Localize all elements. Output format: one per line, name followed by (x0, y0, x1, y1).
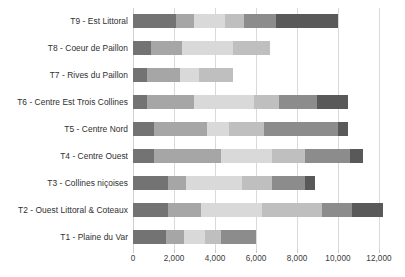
bar-segment[interactable] (242, 176, 273, 190)
bar-segment[interactable] (133, 68, 147, 82)
bar-segment[interactable] (133, 41, 151, 55)
bar-segment[interactable] (244, 14, 277, 28)
bar-segment[interactable] (184, 230, 205, 244)
y-axis-label: T9 - Est Littoral (0, 14, 128, 28)
x-tick-label: 6,000 (246, 254, 267, 263)
bar-segment[interactable] (305, 149, 350, 163)
bar-segment[interactable] (133, 203, 168, 217)
bar-segment[interactable] (133, 230, 166, 244)
bar-segment[interactable] (133, 149, 154, 163)
bar-segment[interactable] (154, 122, 207, 136)
y-axis-category-labels: T9 - Est LittoralT8 - Coeur de PaillonT7… (0, 8, 128, 250)
stacked-bar-chart: T9 - Est LittoralT8 - Coeur de PaillonT7… (0, 0, 405, 277)
bar-segment[interactable] (133, 176, 168, 190)
x-tick-mark (338, 250, 339, 253)
bar-segment[interactable] (262, 203, 321, 217)
bar-segment[interactable] (350, 149, 362, 163)
bar-segment[interactable] (154, 149, 222, 163)
bar-row[interactable] (133, 68, 233, 82)
bar-segment[interactable] (151, 41, 182, 55)
bar-segment[interactable] (317, 95, 348, 109)
bar-segment[interactable] (182, 41, 233, 55)
bar-segment[interactable] (176, 14, 194, 28)
plot-area (133, 8, 379, 250)
bar-segment[interactable] (229, 122, 264, 136)
bar-row[interactable] (133, 41, 270, 55)
bar-segment[interactable] (221, 149, 272, 163)
x-axis: 02,0004,0006,0008,00010,00012,000 (133, 250, 379, 270)
bar-row[interactable] (133, 149, 363, 163)
bar-row[interactable] (133, 14, 338, 28)
x-tick-mark (297, 250, 298, 253)
bar-segment[interactable] (168, 203, 201, 217)
bar-segment[interactable] (225, 14, 243, 28)
bar-segment[interactable] (264, 122, 338, 136)
bar-segment[interactable] (166, 230, 184, 244)
bar-segment[interactable] (272, 149, 305, 163)
bar-segment[interactable] (272, 176, 305, 190)
x-tick-label: 12,000 (366, 254, 391, 263)
bar-segment[interactable] (186, 176, 241, 190)
bar-segment[interactable] (199, 68, 234, 82)
x-tick-label: 8,000 (287, 254, 308, 263)
y-axis-label: T8 - Coeur de Paillon (0, 41, 128, 55)
bar-segment[interactable] (168, 176, 186, 190)
bar-segment[interactable] (207, 122, 230, 136)
bar-segment[interactable] (147, 95, 194, 109)
y-axis-label: T7 - Rives du Paillon (0, 68, 128, 82)
y-axis-label: T4 - Centre Ouest (0, 149, 128, 163)
bar-segment[interactable] (254, 95, 279, 109)
bar-segment[interactable] (233, 41, 270, 55)
x-tick-label: 0 (131, 254, 136, 263)
y-axis-label: T6 - Centre Est Trois Collines (0, 95, 128, 109)
bar-segment[interactable] (338, 122, 348, 136)
bar-segment[interactable] (133, 95, 147, 109)
bar-row[interactable] (133, 95, 348, 109)
y-axis-label: T3 - Collines niçoises (0, 176, 128, 190)
bar-segment[interactable] (180, 68, 198, 82)
y-axis-label: T1 - Plaine du Var (0, 230, 128, 244)
bar-segment[interactable] (221, 230, 256, 244)
bar-segment[interactable] (276, 14, 338, 28)
bar-segment[interactable] (305, 176, 315, 190)
x-tick-mark (215, 250, 216, 253)
bar-row[interactable] (133, 122, 348, 136)
x-tick-mark (174, 250, 175, 253)
y-axis-label: T2 - Ouest Littoral & Coteaux (0, 203, 128, 217)
bar-segment[interactable] (194, 95, 253, 109)
bar-row[interactable] (133, 176, 315, 190)
x-tick-label: 10,000 (325, 254, 350, 263)
x-tick-mark (256, 250, 257, 253)
bar-segment[interactable] (147, 68, 180, 82)
bar-segment[interactable] (194, 14, 225, 28)
bar-row[interactable] (133, 203, 383, 217)
x-tick-mark (133, 250, 134, 253)
bar-segment[interactable] (352, 203, 383, 217)
x-tick-label: 2,000 (164, 254, 185, 263)
bar-segment[interactable] (279, 95, 318, 109)
bar-segment[interactable] (201, 203, 263, 217)
x-tick-mark (379, 250, 380, 253)
bar-row[interactable] (133, 230, 256, 244)
bar-segment[interactable] (205, 230, 221, 244)
bar-segment[interactable] (133, 122, 154, 136)
bar-segment[interactable] (322, 203, 353, 217)
x-tick-label: 4,000 (205, 254, 226, 263)
bar-segment[interactable] (133, 14, 176, 28)
y-axis-label: T5 - Centre Nord (0, 122, 128, 136)
